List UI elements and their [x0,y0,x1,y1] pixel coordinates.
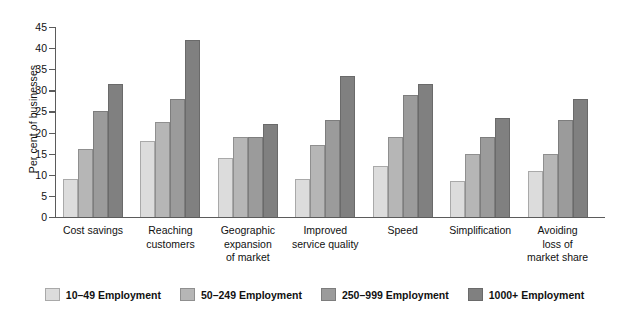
bar [108,84,123,217]
y-tick-mark [49,154,55,155]
legend-label: 50–249 Employment [201,289,302,301]
x-axis-label-line: of market [188,251,308,265]
bar [465,154,480,217]
y-tick-label: 25 [17,105,47,117]
y-tick-mark [49,69,55,70]
y-tick-label: 10 [17,169,47,181]
legend-swatch [321,288,336,301]
legend-label: 1000+ Employment [489,289,584,301]
bar [93,111,108,217]
bar [480,137,495,217]
y-tick-label: 35 [17,63,47,75]
bar [218,158,233,217]
bar-group [450,27,510,217]
bar [170,99,185,217]
bar [140,141,155,217]
bar [528,171,543,217]
legend-item: 50–249 Employment [180,288,302,301]
legend-label: 250–999 Employment [342,289,449,301]
bar [373,166,388,217]
y-axis-line [55,27,56,218]
y-tick-label: 40 [17,42,47,54]
bar [388,137,403,217]
y-tick-label: 15 [17,148,47,160]
y-tick-label: 20 [17,127,47,139]
x-axis-label-line: market share [498,251,618,265]
bar-chart: Per cent of businesses 05101520253035404… [0,0,629,319]
y-tick-mark [49,27,55,28]
y-tick-mark [49,90,55,91]
bar-group [218,27,278,217]
y-tick-label: 30 [17,84,47,96]
bar [310,145,325,217]
y-tick-mark [49,196,55,197]
bar [543,154,558,217]
bar [295,179,310,217]
legend: 10–49 Employment50–249 Employment250–999… [0,288,629,301]
legend-swatch [180,288,195,301]
x-axis-line [55,217,605,218]
bar [185,40,200,217]
x-axis-label-line: loss of [498,238,618,252]
bar [340,76,355,217]
y-tick-label: 5 [17,190,47,202]
bar-group [63,27,123,217]
y-tick-label: 0 [17,211,47,223]
bar [403,95,418,217]
bar [248,137,263,217]
bar-group [295,27,355,217]
bar-group [528,27,588,217]
bar [233,137,248,217]
y-tick-mark [49,111,55,112]
x-axis-label-line: Avoiding [498,224,618,238]
bar-group [373,27,433,217]
y-tick-mark [49,48,55,49]
bar [450,181,465,217]
bar [155,122,170,217]
legend-label: 10–49 Employment [66,289,161,301]
legend-swatch [45,288,60,301]
y-tick-mark [49,217,55,218]
bar-group [140,27,200,217]
x-axis-label: Avoidingloss ofmarket share [498,224,618,265]
bar [573,99,588,217]
legend-item: 10–49 Employment [45,288,161,301]
y-tick-label: 45 [17,21,47,33]
bar [63,179,78,217]
plot-area: 051015202530354045 [57,27,605,217]
y-tick-mark [49,175,55,176]
legend-item: 1000+ Employment [468,288,584,301]
bar [418,84,433,217]
bar [495,118,510,217]
bar [325,120,340,217]
bar [78,149,93,217]
bar [558,120,573,217]
bar [263,124,278,217]
legend-swatch [468,288,483,301]
x-axis-label-line: service quality [265,238,385,252]
y-tick-mark [49,133,55,134]
legend-item: 250–999 Employment [321,288,449,301]
